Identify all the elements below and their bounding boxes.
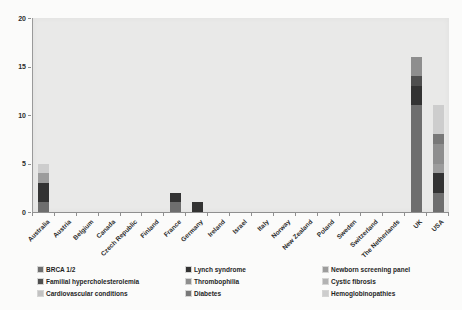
- bar-segment-australia-newborn-screening-panel: [38, 173, 49, 183]
- legend-item-diabetes: Diabetes: [186, 290, 221, 297]
- y-tick-mark: [28, 67, 31, 68]
- legend-label: Hemoglobinopathies: [331, 290, 395, 297]
- bar-segment-france-lynch-syndrome: [170, 193, 181, 203]
- x-tick-mark: [98, 213, 99, 216]
- legend-label: Diabetes: [194, 290, 221, 297]
- legend-swatch-icon: [323, 267, 328, 272]
- x-tick-mark: [360, 213, 361, 216]
- x-tick-mark: [273, 213, 274, 216]
- y-tick-mark: [28, 115, 31, 116]
- legend-item-cystic-fibrosis: Cystic fibrosis: [323, 278, 376, 285]
- x-category-label-italy: Italy: [256, 218, 270, 232]
- legend-swatch-icon: [186, 279, 191, 284]
- legend-swatch-icon: [186, 291, 191, 296]
- x-category-label-israel: Israel: [231, 218, 248, 235]
- x-tick-mark: [32, 213, 33, 216]
- legend-label: Cystic fibrosis: [331, 278, 376, 285]
- x-category-label-finland: Finland: [139, 218, 160, 239]
- plot-area: [32, 18, 449, 213]
- bar-segment-usa-newborn-screening-panel: [433, 164, 444, 174]
- legend-item-newborn-screening-panel: Newborn screening panel: [323, 266, 410, 273]
- x-category-label-austria: Austria: [52, 218, 73, 239]
- x-tick-mark: [426, 213, 427, 216]
- legend-label: Thrombophilia: [194, 278, 239, 285]
- legend-item-familial-hypercholesterolemia: Familial hypercholesterolemia: [38, 278, 139, 285]
- stacked-bar-chart: 05101520 AustraliaAustriaBelgiumCanadaCz…: [0, 0, 462, 310]
- legend-item-thrombophilia: Thrombophilia: [186, 278, 239, 285]
- bar-segment-uk-familial-hypercholesterolemia: [411, 76, 422, 86]
- y-tick-mark: [28, 164, 31, 165]
- x-tick-mark: [207, 213, 208, 216]
- x-tick-mark: [404, 213, 405, 216]
- bar-segment-uk-thrombophilia: [411, 57, 422, 76]
- bar-segment-australia-hemoglobinopathies: [38, 164, 49, 174]
- x-tick-mark: [54, 213, 55, 216]
- x-category-label-australia: Australia: [26, 218, 51, 243]
- bar-segment-usa-brca-1-2: [433, 193, 444, 212]
- y-tick-label-5: 5: [4, 160, 26, 167]
- legend-swatch-icon: [186, 267, 191, 272]
- legend-label: Lynch syndrome: [194, 266, 246, 273]
- legend-label: Newborn screening panel: [331, 266, 410, 273]
- bar-segment-australia-lynch-syndrome: [38, 183, 49, 202]
- x-category-label-france: France: [162, 218, 182, 238]
- legend-swatch-icon: [38, 279, 43, 284]
- legend-item-cardiovascular-conditions: Cardiovascular conditions: [38, 290, 128, 297]
- legend-label: Familial hypercholesterolemia: [46, 278, 139, 285]
- x-tick-mark: [339, 213, 340, 216]
- legend-item-lynch-syndrome: Lynch syndrome: [186, 266, 246, 273]
- x-tick-mark: [76, 213, 77, 216]
- x-tick-mark: [185, 213, 186, 216]
- legend-label: Cardiovascular conditions: [46, 290, 128, 297]
- bar-segment-uk-brca-1-2: [411, 105, 422, 212]
- bar-segment-usa-hemoglobinopathies: [433, 105, 444, 134]
- y-tick-mark: [28, 18, 31, 19]
- y-tick-label-10: 10: [4, 112, 26, 119]
- legend-swatch-icon: [323, 291, 328, 296]
- x-category-label-usa: USA: [430, 218, 445, 233]
- x-category-label-ireland: Ireland: [206, 218, 226, 238]
- bar-segment-france-brca-1-2: [170, 202, 181, 212]
- x-tick-mark: [120, 213, 121, 216]
- x-tick-mark: [317, 213, 318, 216]
- x-category-label-belgium: Belgium: [72, 218, 95, 241]
- legend-item-hemoglobinopathies: Hemoglobinopathies: [323, 290, 395, 297]
- legend-swatch-icon: [38, 267, 43, 272]
- x-tick-mark: [163, 213, 164, 216]
- x-tick-mark: [251, 213, 252, 216]
- bar-segment-usa-lynch-syndrome: [433, 173, 444, 192]
- bar-segment-usa-diabetes: [433, 134, 444, 144]
- x-tick-mark: [229, 213, 230, 216]
- legend-swatch-icon: [38, 291, 43, 296]
- x-tick-mark: [382, 213, 383, 216]
- y-tick-mark: [28, 212, 31, 213]
- legend-label: BRCA 1/2: [46, 266, 75, 273]
- bar-segment-germany-lynch-syndrome: [192, 202, 203, 212]
- bar-segment-uk-lynch-syndrome: [411, 86, 422, 105]
- legend-swatch-icon: [323, 279, 328, 284]
- x-tick-mark: [141, 213, 142, 216]
- x-category-label-germany: Germany: [179, 218, 204, 243]
- legend-item-brca-1-2: BRCA 1/2: [38, 266, 75, 273]
- x-tick-mark: [448, 213, 449, 216]
- x-tick-mark: [295, 213, 296, 216]
- bar-segment-australia-brca-1-2: [38, 202, 49, 212]
- x-category-label-uk: UK: [412, 218, 424, 230]
- x-category-label-poland: Poland: [315, 218, 335, 238]
- y-tick-label-15: 15: [4, 63, 26, 70]
- y-tick-label-0: 0: [4, 209, 26, 216]
- y-tick-label-20: 20: [4, 15, 26, 22]
- bar-segment-usa-thrombophilia: [433, 144, 444, 163]
